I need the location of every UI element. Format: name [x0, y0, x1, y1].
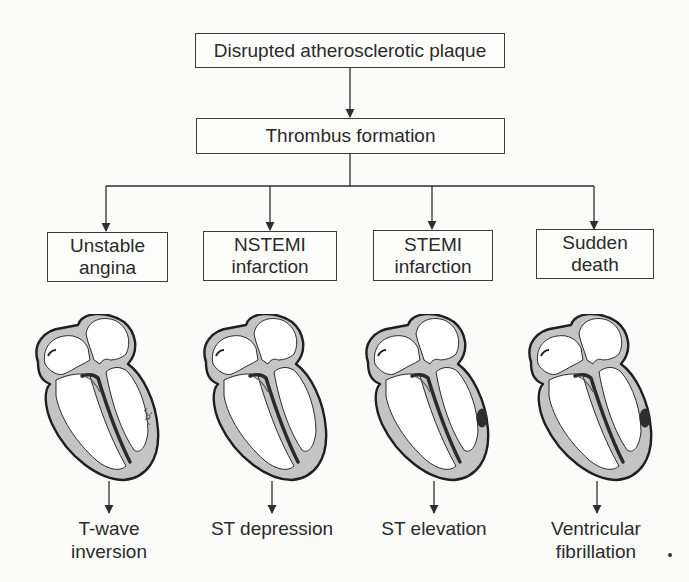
nstemi-box: NSTEMI infarction [203, 231, 337, 281]
plaque-label: Disrupted atherosclerotic plaque [214, 40, 487, 62]
ecg-label-line1: ST depression [192, 517, 352, 540]
heart-sudden-death [521, 314, 661, 486]
transmural-infarct-icon [477, 409, 488, 428]
heart-stemi [358, 314, 498, 486]
trailing-period-mark [668, 553, 672, 557]
ecg-outcome-vf: Ventricular fibrillation [516, 517, 676, 563]
heart-nstemi [196, 314, 336, 486]
heart-unstable-angina [28, 314, 168, 486]
ecg-outcome-t-wave: T-wave inversion [29, 517, 189, 563]
sudden-death-box: Sudden death [536, 229, 654, 279]
syndrome-label-line1: Sudden [562, 232, 628, 254]
syndrome-label-line1: Unstable [70, 235, 145, 257]
ecg-label-line1: ST elevation [354, 517, 514, 540]
ecg-label-line2: inversion [29, 540, 189, 563]
syndrome-label-line2: death [571, 254, 619, 276]
transmural-infarct-icon [640, 409, 651, 428]
syndrome-label-line1: NSTEMI [234, 234, 306, 256]
thrombus-box: Thrombus formation [196, 118, 505, 154]
ecg-label-line1: T-wave [29, 517, 189, 540]
ecg-outcome-st-elevation: ST elevation [354, 517, 514, 540]
syndrome-label-line2: infarction [231, 256, 308, 278]
syndrome-label-line1: STEMI [404, 234, 462, 256]
unstable-angina-box: Unstable angina [47, 232, 168, 282]
syndrome-label-line2: infarction [394, 256, 471, 278]
syndrome-label-line2: angina [79, 257, 136, 279]
thrombus-label: Thrombus formation [265, 125, 435, 147]
ecg-label-line2: fibrillation [516, 540, 676, 563]
stemi-box: STEMI infarction [373, 230, 493, 281]
ecg-label-line1: Ventricular [516, 517, 676, 540]
flow-connectors [0, 0, 689, 582]
ecg-outcome-st-depression: ST depression [192, 517, 352, 540]
plaque-box: Disrupted atherosclerotic plaque [195, 33, 505, 68]
